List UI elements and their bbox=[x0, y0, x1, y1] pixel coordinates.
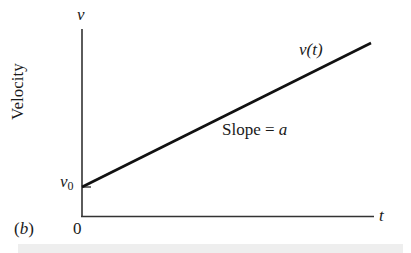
velocity-line bbox=[82, 43, 371, 187]
panel-letter: b bbox=[20, 219, 29, 238]
panel-label: (b) bbox=[14, 220, 34, 237]
v0-subscript: 0 bbox=[68, 179, 74, 193]
t-axis-label: t bbox=[379, 207, 384, 224]
velocity-label: Velocity bbox=[8, 63, 28, 120]
slope-annotation: Slope = a bbox=[222, 121, 287, 138]
v-axis-label: v bbox=[77, 6, 85, 23]
origin-label: 0 bbox=[73, 220, 82, 237]
v0-base: v bbox=[60, 172, 68, 191]
bottom-divider bbox=[18, 244, 403, 253]
slope-text: Slope = bbox=[222, 120, 279, 139]
v0-label: v0 bbox=[60, 173, 74, 192]
velocity-time-plot bbox=[0, 0, 411, 253]
vt-line-label: v(t) bbox=[299, 41, 323, 58]
slope-variable: a bbox=[279, 120, 288, 139]
